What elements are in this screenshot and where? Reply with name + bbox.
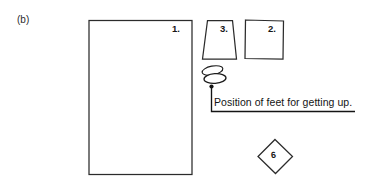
rectangle-1-shape (89, 21, 192, 175)
trapezoid-3-label: 3. (220, 24, 228, 34)
figure-panel-b: (b) 1. 3. 2. 6 Position of feet for gett… (0, 0, 370, 191)
quadrilateral-2-shape (245, 20, 284, 59)
feet-ovals-shape (201, 64, 226, 84)
feet-position-caption: Position of feet for getting up. (214, 97, 352, 108)
panel-letter-label: (b) (17, 15, 29, 25)
rectangle-1-label: 1. (172, 24, 180, 34)
diamond-6-label: 6 (271, 151, 277, 160)
quadrilateral-2-label: 2. (268, 24, 276, 34)
